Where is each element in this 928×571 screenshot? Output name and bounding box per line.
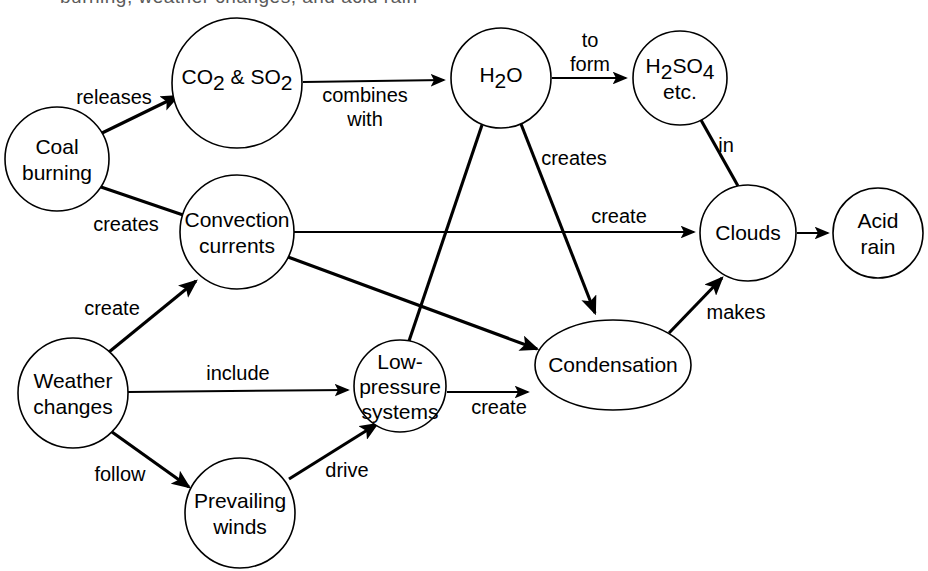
edge-label-creates-h2o: creates [541, 147, 607, 169]
concept-map-svg: Coal burning CO2 & SO2 H2O H2SO4 etc. [0, 0, 928, 571]
edge-coal-to-convection [101, 187, 186, 216]
edge-label-create-weather: create [84, 297, 140, 319]
node-acid-rain-line2: rain [860, 235, 895, 258]
edge-label-combines: combines [322, 84, 408, 106]
node-acid-rain-line1: Acid [858, 209, 899, 232]
node-convection-currents[interactable]: Convection currents [180, 175, 294, 289]
node-h2so4-etc: etc. [663, 80, 697, 103]
node-low-pressure-systems[interactable]: Low- pressure systems [354, 340, 446, 432]
node-weather-line2: changes [33, 395, 112, 418]
node-lowpressure-line1: Low- [377, 350, 423, 373]
edge-label-create-lowpressure: create [471, 396, 527, 418]
node-h2o[interactable]: H2O [451, 28, 551, 128]
edge-label-creates-coal: creates [93, 213, 159, 235]
edge-label-include: include [206, 362, 269, 384]
node-coal-burning-line2: burning [22, 161, 92, 184]
edge-label-with: with [346, 108, 383, 130]
edge-label-makes: makes [707, 301, 766, 323]
node-convection-line1: Convection [184, 208, 289, 231]
edge-label-to: to [582, 29, 599, 51]
edge-label-create-convection: create [591, 205, 647, 227]
node-weather-line1: Weather [34, 369, 113, 392]
node-condensation[interactable]: Condensation [535, 320, 691, 410]
node-co2-so2[interactable]: CO2 & SO2 [172, 18, 302, 148]
node-clouds[interactable]: Clouds [700, 185, 796, 281]
edge-co2so2-to-h2o [303, 80, 444, 82]
node-clouds-label: Clouds [715, 221, 780, 244]
node-h2so4[interactable]: H2SO4 etc. [633, 31, 727, 125]
edge-label-drive: drive [325, 459, 368, 481]
concept-map-canvas: burning, weather changes, and acid rain [0, 0, 928, 571]
node-coal-burning-line1: Coal [35, 135, 78, 158]
node-weather-changes[interactable]: Weather changes [18, 338, 128, 448]
edge-weather-to-lowpressure [128, 390, 348, 392]
node-convection-line2: currents [199, 234, 275, 257]
node-coal-burning[interactable]: Coal burning [5, 107, 109, 211]
node-condensation-label: Condensation [548, 353, 678, 376]
node-winds-line2: winds [212, 515, 267, 538]
node-lowpressure-line2: pressure [359, 375, 441, 398]
edge-label-in: in [718, 134, 734, 156]
node-acid-rain[interactable]: Acid rain [833, 188, 923, 278]
edge-label-follow: follow [94, 463, 146, 485]
edge-label-releases: releases [76, 86, 152, 108]
node-lowpressure-line3: systems [361, 400, 438, 423]
edge-label-form: form [570, 53, 610, 75]
node-prevailing-winds[interactable]: Prevailing winds [185, 458, 295, 568]
node-winds-line1: Prevailing [194, 489, 286, 512]
